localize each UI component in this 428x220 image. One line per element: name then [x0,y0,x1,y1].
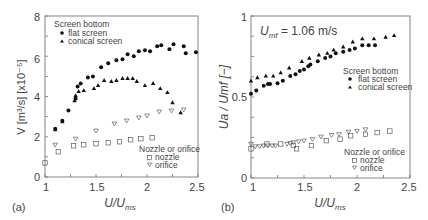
data-point-filled-triangle [255,75,259,79]
data-point-filled-triangle [114,78,118,82]
data-point-open-down-triangle [329,133,334,137]
data-point-filled-circle [373,43,377,47]
data-point-open-square [363,132,367,136]
data-point-open-square [324,139,328,143]
panel-b-ytick-0.5: 0.5 [232,91,247,103]
data-point-open-square [128,138,132,142]
data-point-filled-triangle [125,76,129,80]
figure-canvas: 8 6 4 2 0 1 1.5 2 2.5 U/Ums V [m³/s] [x1… [0,0,428,220]
data-point-filled-triangle [135,79,139,83]
data-point-filled-triangle [96,83,100,87]
data-point-open-square [388,129,392,133]
data-point-filled-circle [106,61,110,65]
panel-b-xtick-1: 1 [250,181,256,193]
data-point-open-down-triangle [112,122,117,126]
data-point-filled-triangle [249,79,253,83]
data-point-filled-circle [348,48,352,52]
data-point-open-down-triangle [145,114,150,118]
data-point-filled-triangle [372,36,376,40]
panel-b-ytick-0: 0 [241,172,247,184]
data-point-filled-triangle [178,110,182,114]
data-point-filled-circle [143,48,147,52]
data-point-open-down-triangle [257,145,262,149]
data-point-open-down-triangle [253,145,258,149]
data-point-open-down-triangle [181,108,186,112]
data-point-filled-circle [184,51,188,55]
data-point-filled-circle [294,72,298,76]
data-point-filled-circle [281,79,285,83]
open-square-marker-icon [148,156,152,160]
panel-b-xtick-2: 2 [354,181,360,193]
data-point-filled-circle [360,43,364,47]
data-point-open-down-triangle [53,143,58,147]
panel-b-legend2-item2: orifice [360,163,383,173]
data-point-filled-circle [167,47,171,51]
data-point-open-down-triangle [124,119,129,123]
panel-a-chart: 8 6 4 2 0 1 1.5 2 2.5 U/Ums V [m³/s] [x1… [12,11,205,213]
panel-b-data-points [249,33,397,151]
data-point-open-square [338,137,342,141]
data-point-open-square [56,150,60,154]
data-point-filled-circle [276,81,280,85]
data-point-open-down-triangle [363,128,368,132]
data-point-filled-triangle [131,76,135,80]
data-point-open-down-triangle [355,129,360,133]
data-point-open-square [94,142,98,146]
data-point-filled-circle [254,89,258,93]
data-point-open-square [117,140,121,144]
data-point-filled-circle [194,50,198,54]
data-point-filled-circle [268,82,272,86]
panel-b-xtick-1.5: 1.5 [297,181,312,193]
data-point-filled-circle [114,58,118,62]
open-square-marker-icon [353,159,357,163]
data-point-open-down-triangle [310,138,315,142]
panel-a-xtick-2: 2 [144,181,150,193]
data-point-filled-triangle [317,53,321,57]
data-point-filled-circle [155,44,159,48]
data-point-filled-triangle [341,44,345,48]
data-point-filled-triangle [102,78,106,82]
data-point-open-down-triangle [157,110,162,114]
data-point-filled-circle [137,49,141,53]
data-point-filled-triangle [278,70,282,74]
data-point-filled-triangle [264,74,268,78]
data-point-open-down-triangle [296,140,301,144]
data-point-filled-triangle [331,48,335,52]
panel-a-xtick-1.5: 1.5 [89,181,104,193]
data-point-filled-circle [367,43,371,47]
data-point-filled-triangle [158,86,162,90]
panel-a-xlabel: U/Ums [104,196,135,212]
data-point-filled-circle [262,84,266,88]
data-point-filled-circle [126,52,130,56]
data-point-open-square [375,130,379,134]
data-point-open-square [291,143,295,147]
data-point-filled-circle [341,50,345,54]
data-point-open-down-triangle [73,137,78,141]
data-point-filled-circle [66,109,70,113]
panel-b-xlabel: U/Ums [314,196,345,212]
data-point-filled-triangle [165,90,169,94]
data-point-open-down-triangle [94,129,99,133]
data-point-filled-circle [99,65,103,69]
panel-a-legend2-item2: orifice [155,160,178,170]
panel-a-legend1-item2: conical screen [68,36,123,46]
data-point-filled-triangle [325,51,329,55]
data-point-filled-triangle [73,93,77,97]
filled-circle-marker-icon [60,31,64,35]
data-point-open-down-triangle [319,135,324,139]
data-point-open-down-triangle [302,139,307,143]
data-point-filled-triangle [360,36,364,40]
data-point-filled-triangle [287,66,291,70]
data-point-filled-circle [329,55,333,59]
data-point-filled-circle [288,74,292,78]
data-point-filled-circle [316,59,320,63]
data-point-filled-circle [308,63,312,67]
data-point-open-down-triangle [273,144,278,148]
data-point-filled-triangle [151,81,155,85]
data-point-filled-circle [302,67,306,71]
filled-triangle-marker-icon [60,40,64,43]
data-point-filled-circle [353,46,357,50]
panel-a-ytick-2: 2 [34,131,40,143]
panel-b-label: (b) [221,201,234,213]
open-down-triangle-marker-icon [353,166,357,170]
